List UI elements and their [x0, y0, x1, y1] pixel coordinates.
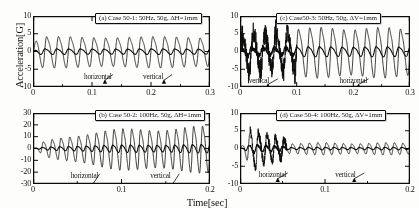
leader-line — [268, 79, 278, 85]
trace-horizontal — [33, 126, 210, 173]
y-tick-label: -10 — [7, 156, 31, 164]
x-tick-label: 0.1 — [111, 186, 133, 194]
x-tick-label: 0.2 — [140, 89, 162, 97]
panel-title-c: (c) Case50-3: 50Hz, 50g, ΔV=1mm — [276, 13, 381, 24]
x-tick-label: 0.2 — [342, 89, 364, 97]
y-tick-label: 5 — [214, 29, 238, 37]
y-tick-label: 0 — [7, 47, 31, 55]
x-tick-label: 0.1 — [286, 89, 308, 97]
panel-title-a: (a) Case 50-1: 50Hz, 50g, ΔH=1mm — [95, 13, 202, 24]
leader-line — [164, 75, 172, 81]
panel-b: -30-20-10010203000.10.2(b) Case 50-2: 10… — [33, 113, 210, 184]
y-tick-label: 30 — [7, 109, 31, 117]
trace-horizontal — [240, 19, 410, 84]
y-tick-label: 0 — [7, 144, 31, 152]
trace-annotation-horizontal: horizontal — [71, 172, 99, 179]
panel-title-b: (b) Case 50-2: 100Hz, 50g, ΔH=1mm — [95, 110, 205, 121]
x-tick-label: 0.1 — [314, 186, 336, 194]
trace-annotation-vertical: vertical — [335, 171, 355, 178]
y-tick-label: -5 — [214, 162, 238, 170]
y-tick-label: 0 — [214, 47, 238, 55]
x-tick-label: 0 — [22, 89, 44, 97]
y-tick-label: -20 — [7, 168, 31, 176]
panel-c: -10-5051000.10.20.3(c) Case50-3: 50Hz, 5… — [240, 16, 410, 87]
y-tick-label: -5 — [214, 65, 238, 73]
trace-annotation-horizontal: horizontal — [84, 73, 112, 80]
x-tick-label: 0.3 — [399, 89, 419, 97]
y-tick-label: 10 — [7, 132, 31, 140]
trace-horizontal — [33, 36, 210, 68]
x-tick-label: 0.2 — [399, 186, 419, 194]
y-tick-label: 10 — [214, 109, 238, 117]
y-tick-label: 10 — [214, 12, 238, 20]
x-tick-label: 0 — [22, 186, 44, 194]
trace-annotation-vertical: vertical — [143, 73, 163, 80]
y-tick-label: 5 — [214, 126, 238, 134]
trace-annotation-vertical: vertical — [249, 77, 269, 84]
plot-area-a — [33, 16, 210, 87]
y-tick-label: 0 — [214, 144, 238, 152]
trace-annotation-vertical: vertical — [150, 172, 170, 179]
x-tick-label: 0 — [229, 89, 251, 97]
trace-annotation-horizontal: horizontal — [259, 171, 287, 178]
panel-title-d: (d) Case 50-4: 100Hz, 50g, ΔV=1mm — [276, 110, 386, 121]
trace-annotation-horizontal: horizontal — [340, 77, 368, 84]
leader-line — [171, 174, 179, 184]
y-tick-label: -5 — [7, 65, 31, 73]
trace-horizontal — [240, 127, 410, 171]
x-axis-label: Time[sec] — [0, 197, 414, 208]
y-tick-label: 20 — [7, 121, 31, 129]
x-tick-label: 0 — [229, 186, 251, 194]
panel-d: -10-5051000.10.2(d) Case 50-4: 100Hz, 50… — [240, 113, 410, 184]
panel-a: -10-5051000.10.20.3(a) Case 50-1: 50Hz, … — [33, 16, 210, 87]
x-tick-label: 0.1 — [81, 89, 103, 97]
plot-area-b — [33, 113, 210, 184]
y-tick-label: 5 — [7, 29, 31, 37]
y-tick-label: 10 — [7, 12, 31, 20]
